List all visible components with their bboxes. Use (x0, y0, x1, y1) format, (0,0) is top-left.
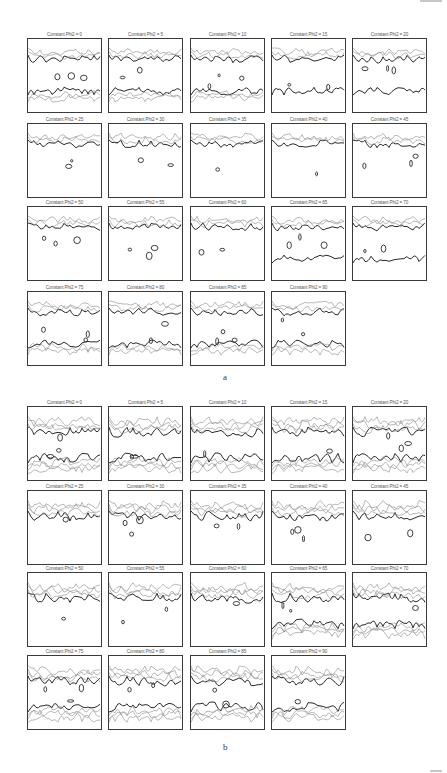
contour-plot (271, 206, 346, 281)
contour-lines (28, 656, 101, 729)
contour-plot (27, 572, 102, 647)
contour-plot (27, 291, 102, 366)
contour-lines (28, 39, 101, 112)
contour-plot (352, 206, 427, 281)
contour-plot (271, 406, 346, 481)
contour-lines (272, 573, 345, 646)
contour-lines (272, 39, 345, 112)
contour-lines (272, 407, 345, 480)
contour-plot (190, 655, 265, 730)
contour-plot (27, 490, 102, 565)
contour-plot (190, 123, 265, 198)
contour-plot (190, 406, 265, 481)
contour-plot (108, 38, 183, 113)
contour-lines (191, 124, 264, 197)
part-label-b: b (223, 742, 228, 752)
contour-plot (271, 123, 346, 198)
contour-plot (190, 572, 265, 647)
contour-lines (28, 292, 101, 365)
contour-lines (191, 656, 264, 729)
contour-lines (272, 656, 345, 729)
contour-plot (27, 206, 102, 281)
contour-lines (353, 207, 426, 280)
contour-lines (109, 573, 182, 646)
contour-lines (272, 124, 345, 197)
contour-plot (352, 406, 427, 481)
contour-lines (272, 292, 345, 365)
contour-lines (191, 207, 264, 280)
contour-lines (191, 407, 264, 480)
contour-plot (108, 406, 183, 481)
contour-lines (353, 573, 426, 646)
contour-lines (191, 292, 264, 365)
contour-plot (271, 655, 346, 730)
contour-plot (108, 206, 183, 281)
contour-lines (109, 292, 182, 365)
contour-plot (271, 490, 346, 565)
contour-lines (109, 39, 182, 112)
contour-plot (108, 655, 183, 730)
contour-lines (353, 407, 426, 480)
contour-lines (191, 573, 264, 646)
scan-mark-bottom-right (430, 770, 442, 772)
contour-plot (190, 206, 265, 281)
contour-lines (109, 207, 182, 280)
contour-lines (109, 491, 182, 564)
contour-plot (27, 406, 102, 481)
contour-plot (27, 655, 102, 730)
contour-plot (108, 123, 183, 198)
contour-lines (353, 39, 426, 112)
contour-plot (271, 572, 346, 647)
contour-plot (27, 38, 102, 113)
contour-lines (28, 124, 101, 197)
contour-lines (109, 407, 182, 480)
contour-plot (108, 572, 183, 647)
contour-lines (191, 39, 264, 112)
contour-lines (272, 491, 345, 564)
contour-plot (190, 490, 265, 565)
contour-lines (191, 491, 264, 564)
contour-plot (271, 291, 346, 366)
contour-plot (352, 572, 427, 647)
contour-lines (272, 207, 345, 280)
contour-lines (28, 491, 101, 564)
contour-lines (109, 656, 182, 729)
contour-plot (352, 490, 427, 565)
contour-plot (190, 291, 265, 366)
contour-lines (28, 407, 101, 480)
scan-mark-top-right (420, 0, 442, 2)
contour-plot (108, 490, 183, 565)
contour-plot (352, 123, 427, 198)
part-label-a: a (223, 372, 227, 382)
contour-lines (353, 124, 426, 197)
contour-lines (28, 573, 101, 646)
contour-lines (28, 207, 101, 280)
contour-plot (190, 38, 265, 113)
contour-lines (353, 491, 426, 564)
contour-plot (352, 38, 427, 113)
contour-plot (27, 123, 102, 198)
contour-plot (271, 38, 346, 113)
contour-lines (109, 124, 182, 197)
contour-plot (108, 291, 183, 366)
